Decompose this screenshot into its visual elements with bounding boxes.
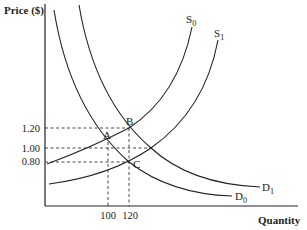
supply-curve-s0: [47, 27, 192, 164]
supply-demand-chart: Price ($) Quantity 1.20 1.00 0.80 100 12…: [0, 0, 307, 230]
point-label-b: B: [126, 115, 133, 127]
y-tick-1-20: 1.20: [22, 123, 40, 134]
demand-curve-d1: [79, 5, 260, 187]
x-tick-100: 100: [100, 210, 116, 221]
label-s1: S1: [214, 27, 224, 42]
point-label-a: A: [103, 129, 111, 141]
label-s0: S0: [186, 13, 196, 28]
y-tick-0-80: 0.80: [22, 156, 40, 167]
y-axis-label: Price ($): [4, 4, 44, 17]
point-label-c: C: [133, 158, 140, 170]
label-d1: D1: [262, 181, 274, 196]
x-tick-120: 120: [122, 210, 138, 221]
x-axis-label: Quantity: [258, 214, 301, 226]
demand-curve-d0: [54, 10, 232, 196]
label-d0: D0: [235, 190, 247, 205]
y-tick-1-00: 1.00: [22, 143, 40, 154]
